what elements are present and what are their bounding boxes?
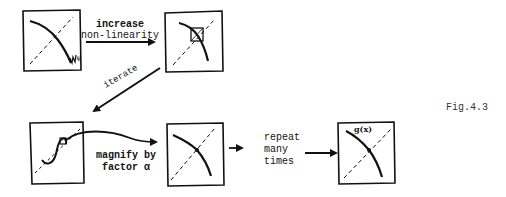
magnify-label-line2: factor α (92, 162, 160, 173)
panel-4 (167, 123, 224, 186)
panel-1-curve-label: ψ (76, 54, 82, 62)
panel-2 (165, 11, 223, 72)
repeat-label-line3: times (264, 156, 294, 167)
magnify-arrow (66, 132, 156, 143)
increase-label-line1: increase (86, 19, 154, 30)
increase-label-line2: non-linearity (80, 30, 160, 41)
repeat-label-line1: repeat (264, 132, 300, 143)
panel-5-curve-label: g(x) (354, 124, 372, 135)
panel-1: ψ (23, 10, 82, 71)
repeat-label-line2: many (264, 144, 288, 155)
magnify-label-line1: magnify by (92, 150, 160, 161)
figure-label: Fig.4.3 (446, 102, 488, 113)
diagram-canvas: ψ (0, 0, 506, 197)
